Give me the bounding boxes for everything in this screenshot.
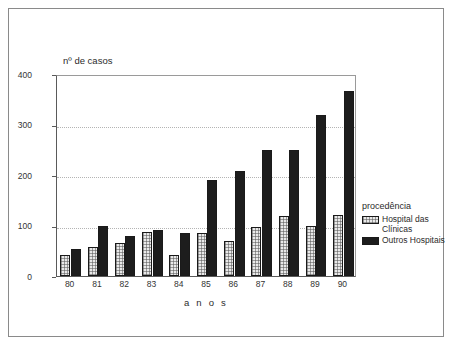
bar-81-series-1[interactable] — [88, 247, 98, 276]
bar-83-series-2[interactable] — [153, 230, 163, 276]
bar-group-82 — [112, 236, 139, 276]
x-tick-label-90: 90 — [327, 280, 357, 289]
legend-swatch-solid-black-swatch — [362, 237, 379, 245]
legend-label-line1: Hospital das — [382, 214, 429, 224]
x-tick-label-86: 86 — [218, 280, 248, 289]
bar-group-83 — [139, 230, 166, 276]
bar-group-85 — [193, 180, 220, 276]
bar-84-series-2[interactable] — [180, 233, 190, 276]
legend-label-outros-hospitais: Outros Hospitais — [382, 236, 445, 246]
bar-84-series-1[interactable] — [169, 255, 179, 276]
bar-group-87 — [248, 150, 275, 276]
legend-title: procedência — [362, 202, 454, 212]
bar-group-80 — [57, 249, 84, 276]
bar-81-series-2[interactable] — [98, 226, 108, 276]
legend-item-outros-hospitais[interactable]: Outros Hospitais — [362, 236, 454, 246]
y-tick-label-0: 0 — [0, 273, 32, 282]
bar-85-series-1[interactable] — [197, 233, 207, 276]
bar-80-series-1[interactable] — [60, 255, 70, 276]
bar-87-series-1[interactable] — [251, 227, 261, 276]
bar-89-series-1[interactable] — [306, 226, 316, 277]
x-tick-label-84: 84 — [164, 280, 194, 289]
y-tick-mark-0 — [52, 277, 56, 278]
x-tick-label-89: 89 — [300, 280, 330, 289]
y-tick-label-300: 300 — [0, 121, 32, 130]
bar-group-90 — [330, 91, 357, 276]
y-tick-label-200: 200 — [0, 172, 32, 181]
y-tick-label-400: 400 — [0, 71, 32, 80]
bar-89-series-2[interactable] — [316, 115, 326, 276]
chart-figure-frame: nº de casos 400 300 200 100 0 8081828384… — [8, 8, 444, 337]
y-tick-label-100: 100 — [0, 222, 32, 231]
legend-label-hospital-das-clinicas: Hospital das Clínicas — [382, 215, 429, 235]
x-tick-label-82: 82 — [109, 280, 139, 289]
bar-group-86 — [221, 171, 248, 276]
bar-83-series-1[interactable] — [142, 232, 152, 276]
bar-group-88 — [275, 150, 302, 276]
bar-88-series-1[interactable] — [279, 216, 289, 276]
chart-legend: procedência Hospital das Clínicas Outros… — [362, 202, 454, 248]
x-axis-title: a n o s — [56, 297, 356, 308]
bar-86-series-2[interactable] — [235, 171, 245, 276]
bar-87-series-2[interactable] — [262, 150, 272, 276]
bar-88-series-2[interactable] — [289, 150, 299, 276]
x-tick-label-80: 80 — [55, 280, 85, 289]
x-tick-label-81: 81 — [82, 280, 112, 289]
plot-area — [56, 75, 356, 277]
x-tick-label-88: 88 — [273, 280, 303, 289]
bar-group-81 — [84, 226, 111, 276]
bar-86-series-1[interactable] — [224, 241, 234, 276]
bar-85-series-2[interactable] — [207, 180, 217, 276]
x-tick-label-85: 85 — [191, 280, 221, 289]
y-axis-title: nº de casos — [63, 55, 112, 66]
bar-80-series-2[interactable] — [71, 249, 81, 276]
bar-group-89 — [302, 115, 329, 276]
bar-82-series-2[interactable] — [125, 236, 135, 276]
legend-item-hospital-das-clinicas[interactable]: Hospital das Clínicas — [362, 215, 454, 235]
x-tick-label-87: 87 — [246, 280, 276, 289]
bar-90-series-1[interactable] — [333, 215, 343, 276]
bar-82-series-1[interactable] — [115, 243, 125, 276]
bar-90-series-2[interactable] — [344, 91, 354, 276]
bar-group-84 — [166, 233, 193, 276]
legend-label-line2: Clínicas — [382, 224, 412, 234]
x-tick-label-83: 83 — [136, 280, 166, 289]
legend-swatch-hatched-light-swatch — [362, 216, 379, 224]
